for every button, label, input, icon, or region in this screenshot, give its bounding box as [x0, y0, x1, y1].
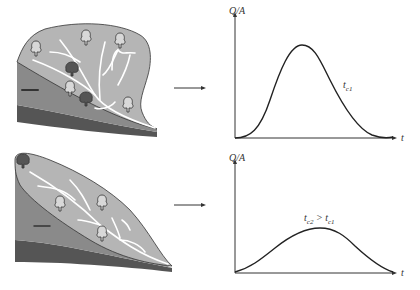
x-axis-label: t — [401, 132, 404, 143]
hydrograph-2: Q/A t tc2 > tc1 — [229, 152, 404, 278]
hydrograph-1: Q/A t tc1 — [229, 5, 404, 143]
tc1-annotation: tc1 — [343, 79, 352, 93]
x-axis-label: t — [401, 267, 404, 278]
catchment-2-block — [15, 153, 172, 272]
arrow-right-icon — [174, 203, 206, 207]
figure-canvas: Q/A t tc1 — [0, 0, 420, 290]
hydrograph-2-curve — [235, 228, 393, 272]
y-axis-label: Q/A — [229, 5, 246, 16]
arrow-right-icon — [174, 86, 206, 90]
y-axis-label: Q/A — [229, 152, 246, 163]
catchment-1-block — [17, 24, 157, 137]
tc2-gt-tc1-annotation: tc2 > tc1 — [304, 212, 335, 226]
hydrograph-1-curve — [235, 45, 393, 138]
